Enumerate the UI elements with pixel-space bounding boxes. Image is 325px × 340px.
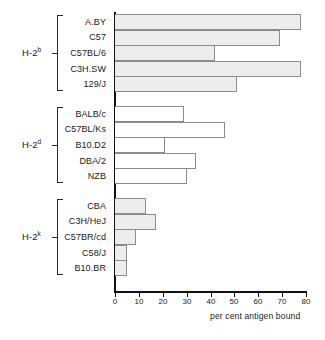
strain-label: C57BL/6 — [70, 48, 106, 58]
haplotype-group-label: H-2d — [22, 139, 41, 150]
strain-label: C3H.SW — [70, 64, 106, 74]
bar — [115, 153, 196, 169]
x-axis-tick-label: 0 — [105, 297, 125, 306]
haplotype-base: H-2 — [22, 231, 38, 242]
strain-label: NZB — [88, 171, 106, 181]
x-axis-tick-label: 80 — [296, 297, 316, 306]
strain-label: C57 — [89, 32, 106, 42]
antigen-binding-bar-chart: 01020304050607080 A.BYC57C57BL/6C3H.SW12… — [0, 0, 325, 340]
strain-label: CBA — [87, 201, 106, 211]
bar — [115, 168, 187, 184]
group-bracket — [57, 107, 63, 183]
x-axis-tick-label: 10 — [129, 297, 149, 306]
strain-label: A.BY — [85, 17, 106, 27]
x-axis-tick-label: 20 — [153, 297, 173, 306]
group-bracket — [57, 15, 63, 91]
strain-label: BALB/c — [75, 109, 106, 119]
strain-label: C57BL/Ks — [65, 124, 106, 134]
strain-label: B10.BR — [74, 263, 106, 273]
haplotype-group-label: H-2b — [22, 47, 41, 58]
strain-label: B10.D2 — [75, 140, 106, 150]
x-axis-tick-label: 50 — [224, 297, 244, 306]
bar — [115, 122, 225, 138]
bar — [115, 106, 184, 122]
haplotype-superscript: d — [38, 138, 42, 145]
bar — [115, 137, 165, 153]
x-axis-tick-label: 30 — [177, 297, 197, 306]
bar — [115, 198, 146, 214]
group-bracket — [57, 199, 63, 275]
bar — [115, 229, 136, 245]
bar — [115, 76, 237, 92]
group-bracket-stub — [52, 53, 57, 54]
strain-label: C58/J — [82, 248, 106, 258]
bar — [115, 14, 301, 30]
strain-label: 129/J — [83, 79, 106, 89]
x-axis-tick-label: 40 — [201, 297, 221, 306]
haplotype-base: H-2 — [22, 139, 38, 150]
haplotype-base: H-2 — [22, 47, 38, 58]
group-bracket-stub — [52, 145, 57, 146]
group-bracket-stub — [52, 237, 57, 238]
bar — [115, 30, 280, 46]
plot-area: 01020304050607080 — [0, 0, 325, 340]
haplotype-superscript: k — [38, 230, 41, 237]
strain-label: DBA/2 — [79, 156, 106, 166]
bar — [115, 260, 127, 276]
bar — [115, 45, 215, 61]
bar — [115, 245, 127, 261]
strain-label: C3H/HeJ — [69, 216, 106, 226]
bar — [115, 214, 156, 230]
x-axis-title: per cent antigen bound — [210, 311, 300, 321]
x-axis-tick-label: 60 — [248, 297, 268, 306]
strain-label: C57BR/cd — [64, 232, 106, 242]
haplotype-superscript: b — [38, 46, 42, 53]
bar — [115, 61, 301, 77]
haplotype-group-label: H-2k — [22, 231, 41, 242]
x-axis-tick-label: 70 — [272, 297, 292, 306]
